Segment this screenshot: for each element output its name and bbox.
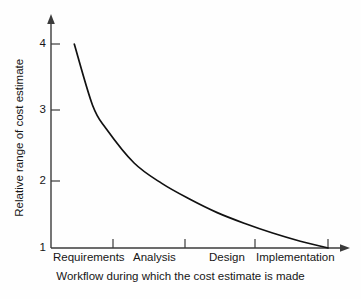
y-tick-label-3: 3 <box>30 104 46 116</box>
x-axis-title: Workflow during which the cost estimate … <box>0 271 361 283</box>
y-axis-title: Relative range of cost estimate <box>14 48 26 228</box>
x-tick-label-design: Design <box>209 252 245 264</box>
x-tick-label-analysis: Analysis <box>133 252 176 264</box>
x-tick-label-implementation: Implementation <box>256 252 335 264</box>
x-axis-arrowhead <box>340 244 350 252</box>
y-tick-label-2: 2 <box>30 175 46 187</box>
x-tick-label-requirements: Requirements <box>53 252 125 264</box>
cost-estimate-chart: 4 3 2 1 Requirements Analysis Design Imp… <box>0 0 361 299</box>
y-axis-arrowhead <box>47 14 55 24</box>
cost-estimate-curve <box>74 44 328 248</box>
y-tick-label-4: 4 <box>30 38 46 50</box>
y-tick-label-1: 1 <box>30 242 46 254</box>
